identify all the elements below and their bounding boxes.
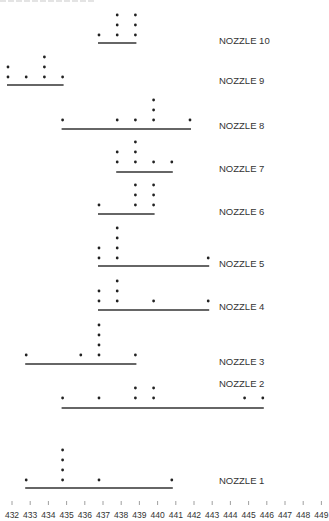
data-dot [98, 300, 101, 303]
nozzle-row: NOZZLE 2 [61, 378, 264, 408]
data-dot [61, 459, 64, 462]
nozzle-label: NOZZLE 10 [219, 35, 270, 46]
data-dot [243, 397, 246, 400]
x-tick-label: 449 [314, 510, 328, 520]
x-tick-label: 444 [223, 510, 237, 520]
data-dot [152, 300, 155, 303]
data-dot [61, 76, 64, 79]
x-tick-label: 434 [41, 510, 55, 520]
x-tick-label: 433 [23, 510, 37, 520]
data-dot [98, 354, 101, 357]
data-dot [152, 161, 155, 164]
nozzle-row: NOZZLE 6 [98, 184, 265, 217]
x-tick-label: 441 [169, 510, 183, 520]
nozzle-label: NOZZLE 8 [219, 120, 264, 131]
data-dot [25, 76, 28, 79]
data-dot [61, 119, 64, 122]
data-dot [116, 14, 119, 17]
data-dot [134, 184, 137, 187]
data-dot [116, 300, 119, 303]
data-dot [134, 14, 137, 17]
data-dot [207, 257, 210, 260]
nozzle-row: NOZZLE 4 [98, 280, 265, 312]
data-dot [116, 151, 119, 154]
data-dot [98, 204, 101, 207]
nozzle-label: NOZZLE 3 [219, 356, 264, 367]
data-dot [98, 247, 101, 250]
nozzle-row: NOZZLE 5 [98, 227, 265, 269]
data-dot [116, 280, 119, 283]
data-dot [170, 161, 173, 164]
x-tick-label: 443 [205, 510, 219, 520]
x-tick-label: 439 [132, 510, 146, 520]
data-dot [61, 469, 64, 472]
data-dot [98, 334, 101, 337]
data-dot [152, 109, 155, 112]
data-dot [7, 66, 10, 69]
data-dot [134, 354, 137, 357]
nozzle-row: NOZZLE 10 [98, 14, 270, 46]
data-dot [79, 354, 82, 357]
x-tick-label: 435 [60, 510, 74, 520]
data-dot [25, 354, 28, 357]
data-dot [116, 34, 119, 37]
nozzle-row: NOZZLE 1 [25, 449, 265, 488]
data-dot [152, 119, 155, 122]
data-dot [134, 204, 137, 207]
x-tick-label: 447 [278, 510, 292, 520]
x-tick-label: 448 [296, 510, 310, 520]
nozzle-label: NOZZLE 1 [219, 475, 264, 486]
data-dot [134, 161, 137, 164]
x-tick-label: 438 [114, 510, 128, 520]
data-dot [116, 227, 119, 230]
data-dot [134, 34, 137, 37]
data-dot [61, 479, 64, 482]
x-tick-label: 446 [260, 510, 274, 520]
data-dot [134, 141, 137, 144]
data-dot [98, 397, 101, 400]
data-dot [25, 479, 28, 482]
data-dot [116, 237, 119, 240]
data-dot [134, 24, 137, 27]
data-dot [98, 344, 101, 347]
data-dot [43, 66, 46, 69]
data-dot [116, 257, 119, 260]
data-dot [134, 119, 137, 122]
data-dot [134, 194, 137, 197]
data-dot [134, 151, 137, 154]
nozzle-label: NOZZLE 2 [219, 378, 264, 389]
data-dot [207, 300, 210, 303]
nozzle-label: NOZZLE 6 [219, 206, 264, 217]
x-tick-label: 436 [78, 510, 92, 520]
data-dot [261, 397, 264, 400]
data-dot [152, 387, 155, 390]
data-dot [152, 184, 155, 187]
nozzle-row: NOZZLE 3 [25, 324, 265, 367]
x-tick-label: 440 [151, 510, 165, 520]
nozzle-label: NOZZLE 4 [219, 301, 264, 312]
nozzle-label: NOZZLE 7 [219, 163, 264, 174]
x-axis: 4324334344354364374384394404414424434444… [5, 501, 329, 520]
data-dot [116, 161, 119, 164]
nozzle-label: NOZZLE 9 [219, 75, 264, 86]
nozzle-label: NOZZLE 5 [219, 258, 264, 269]
data-dot [116, 290, 119, 293]
data-dot [152, 194, 155, 197]
x-tick-label: 442 [187, 510, 201, 520]
x-tick-label: 432 [5, 510, 19, 520]
data-dot [134, 397, 137, 400]
data-dot [170, 479, 173, 482]
data-dot [152, 99, 155, 102]
data-dot [7, 76, 10, 79]
data-dot [116, 24, 119, 27]
data-dot [116, 119, 119, 122]
data-dot [98, 290, 101, 293]
data-dot [152, 204, 155, 207]
data-dot [134, 387, 137, 390]
data-dot [98, 257, 101, 260]
nozzle-row: NOZZLE 9 [7, 56, 265, 86]
data-dot [189, 119, 192, 122]
data-dot [152, 397, 155, 400]
data-dot [98, 324, 101, 327]
data-dot [43, 76, 46, 79]
